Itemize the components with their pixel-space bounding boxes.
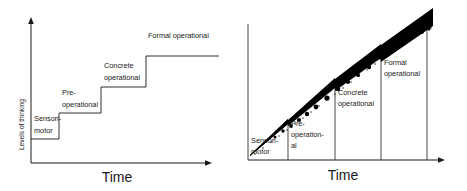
wedge-segment-formal-operational — [381, 8, 433, 62]
data-dot — [356, 73, 360, 77]
x-axis — [31, 160, 212, 166]
stage-label-sensori-motor: Sensori- motor — [251, 136, 279, 156]
x-axis-arrow-icon — [438, 157, 445, 163]
panel-discontinuous-model: Levels of thinking Time Sensori- motor P… — [0, 0, 234, 191]
stage-label-line: operational — [338, 99, 374, 108]
wedge-segment-concrete-operational — [335, 44, 381, 91]
y-axis — [28, 17, 34, 163]
stage-label-line: motor — [251, 147, 270, 156]
stage-label-line: Sensori- — [251, 136, 279, 145]
stage-label-line: Pre- — [62, 88, 76, 97]
data-dot — [281, 129, 284, 132]
stage-label-pre-operational: Pre- operation- al — [291, 119, 324, 150]
figure-cognitive-development-models: Levels of thinking Time Sensori- motor P… — [0, 0, 467, 191]
stage-label-formal-operational: Formal operational — [148, 31, 209, 40]
stage-label-line: operational — [62, 100, 98, 109]
stage-label-sensori-motor: Sensori- motor — [34, 114, 62, 135]
stage-label-line: Concrete — [338, 88, 368, 97]
y-axis-arrow-icon — [28, 17, 34, 24]
panel-continuous-model: Time Sensori- motor Pre- operation- al C… — [233, 0, 467, 191]
stage-label-formal-operational: Formal operational — [384, 58, 420, 78]
stage-label-concrete-operational: Concrete operational — [104, 61, 140, 82]
data-dot — [324, 95, 329, 100]
stage-label-line: Sensori- — [34, 114, 62, 123]
stage-label-line: motor — [34, 126, 53, 135]
stage-label-line: al — [291, 141, 297, 150]
stage-label-line: operational — [104, 73, 140, 82]
data-dot — [378, 54, 383, 59]
stage-label-line: Formal operational — [148, 31, 209, 40]
data-dot — [420, 30, 424, 34]
y-axis-label: Levels of thinking — [18, 99, 26, 150]
stage-label-line: operation- — [291, 130, 324, 139]
stage-label-line: Concrete — [104, 61, 134, 70]
chart-left-staircase: Levels of thinking Time Sensori- motor P… — [0, 0, 234, 191]
data-dot — [367, 65, 371, 69]
data-dot — [427, 27, 430, 30]
data-dot — [391, 45, 397, 51]
stage-label-line: Formal — [384, 58, 407, 67]
data-dot — [402, 38, 407, 43]
growth-wedge — [250, 8, 433, 156]
stage-label-line: operational — [384, 69, 420, 78]
data-dot — [412, 34, 416, 38]
stage-label-concrete-operational: Concrete operational — [338, 88, 374, 108]
data-dot — [305, 112, 309, 116]
data-dot — [346, 80, 350, 84]
x-axis-label: Time — [328, 167, 359, 183]
x-axis — [248, 157, 445, 163]
stage-label-line: Pre- — [291, 119, 305, 128]
x-axis-label: Time — [102, 169, 133, 185]
x-axis-arrow-icon — [205, 160, 212, 166]
data-dot — [314, 105, 319, 110]
stage-label-pre-operational: Pre- operational — [62, 88, 98, 109]
chart-right-continuous: Time Sensori- motor Pre- operation- al C… — [233, 0, 467, 191]
